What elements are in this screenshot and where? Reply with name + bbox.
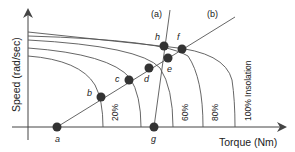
label-g: g [151, 134, 156, 144]
point-h [160, 42, 169, 51]
label-e: e [167, 64, 172, 74]
point-e [164, 54, 173, 63]
curve-60 [28, 40, 173, 127]
curve-label-80: 80% [210, 104, 220, 121]
curve-label-20: 20% [110, 104, 120, 121]
point-f [178, 45, 187, 54]
curve-label-60: 60% [180, 104, 190, 121]
load-line-b [57, 17, 235, 127]
label-b: b [87, 88, 92, 98]
line-a-label: (a) [151, 9, 162, 19]
point-b [97, 93, 106, 102]
label-f: f [177, 32, 181, 42]
point-c [125, 76, 134, 85]
curve-40 [28, 48, 141, 127]
point-a [53, 123, 62, 132]
point-g [150, 123, 159, 132]
label-d: d [144, 74, 150, 84]
line-b-label: (b) [207, 9, 218, 19]
x-axis-label: Torque (Nm) [219, 136, 277, 148]
torque-speed-diagram: a b c d e f h g (a) (b) 20% 60% 80% 100%… [0, 0, 295, 152]
label-h: h [155, 32, 160, 42]
label-c: c [115, 74, 120, 84]
curve-label-100: 100% Insolation [243, 60, 253, 121]
point-d [145, 64, 154, 73]
y-axis-label: Speed (rad/sec) [10, 37, 22, 112]
label-a: a [55, 134, 60, 144]
